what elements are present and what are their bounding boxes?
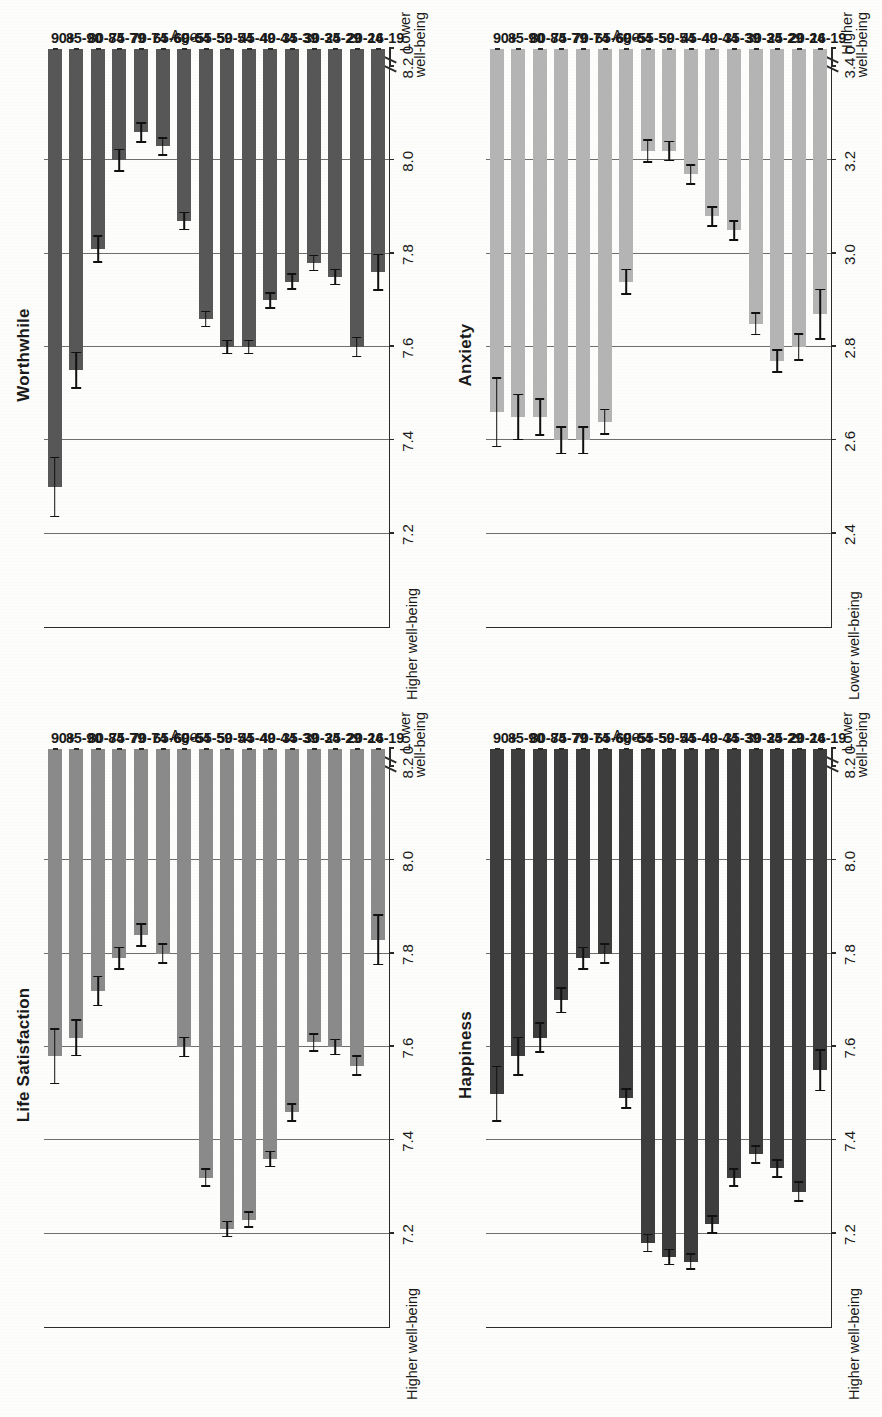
category-label: 90+ [51,30,75,46]
category-tick [312,48,317,50]
bar [598,49,612,422]
plot-area [486,67,832,628]
bar-row [749,47,763,627]
error-bar [76,352,78,389]
bar [328,49,342,277]
plot-area [44,67,390,628]
bar-row [350,47,364,627]
category-tick [355,48,360,50]
higher-wellbeing-label: Higher well-being [405,1288,420,1400]
bar-row [598,47,612,627]
chart-panel-happiness: HappinessHigher well-beingLowerwell-bein… [452,1400,882,1417]
bar [727,49,741,230]
axis-tick [389,532,394,534]
category-tick [754,48,759,50]
bar-row [242,47,256,627]
bar-row [641,47,655,627]
bar [511,49,525,417]
bar [350,49,364,347]
error-bar [97,235,99,263]
category-tick [247,48,252,50]
axis-tick [389,345,394,347]
category-tick [204,48,209,50]
bar-row [727,47,741,627]
bar [242,49,256,347]
bar [177,49,191,221]
bar [69,49,83,370]
higher-wellbeing-label: Lower well-being [847,591,862,700]
error-bar [647,139,649,162]
axis-tick-label: 8.0 [399,151,416,172]
axis-zero-label: 0 [399,46,416,54]
category-tick [53,48,58,50]
higher-wellbeing-label: Higher well-being [405,588,420,700]
bar [684,49,698,174]
axis-tick-label: 7.4 [399,1131,416,1152]
category-tick [646,48,651,50]
error-bar [183,212,185,231]
bar [307,49,321,263]
error-bar [377,254,379,291]
category-tick [268,48,273,50]
error-bar [755,1145,757,1164]
axis-tick [831,252,836,254]
category-tick [710,48,715,50]
error-bar [270,1151,272,1168]
axis-tick-label: 7.2 [841,1224,858,1245]
error-bar [712,206,714,227]
bar-row [48,47,62,627]
axis-tick-label: 7.4 [399,431,416,452]
error-bar [496,377,498,447]
category-tick [775,48,780,50]
bar [112,49,126,160]
bar-row [792,47,806,627]
axis-tick-label: 7.8 [399,244,416,265]
error-bar [248,1211,250,1228]
error-bar [226,340,228,355]
error-bar [819,289,821,340]
category-tick [559,48,564,50]
category-tick [516,48,521,50]
error-bar [334,269,336,286]
error-bar [518,394,520,441]
category-tick [139,48,144,50]
bar-row [490,47,504,627]
axis-tick [389,1232,394,1234]
bar [662,49,676,151]
error-bar [205,1168,207,1187]
axis-tick [831,532,836,534]
bar-row [69,47,83,627]
category-tick [161,48,166,50]
bar [490,49,504,412]
bar [156,49,170,146]
axis-tick-label: 2.6 [841,431,858,452]
error-bar [582,426,584,454]
bar-row [511,47,525,627]
chart-title: Anxiety [456,10,476,700]
higher-wellbeing-label: Higher well-being [847,1288,862,1400]
axis-tick-label: 2.4 [841,524,858,545]
axis-tick [389,252,394,254]
chart-panel-anxiety: AnxietyLower well-beingHigherwell-beingA… [452,700,882,1125]
error-bar [668,1249,670,1266]
error-bar [54,457,56,518]
category-tick [581,48,586,50]
bar [619,49,633,282]
axis-tick-label: 7.4 [841,1131,858,1152]
error-bar [119,149,121,172]
bar-row [705,47,719,627]
category-label: 90+ [493,30,517,46]
bar [770,49,784,361]
error-bar [248,340,250,355]
axis-tick [389,1139,394,1141]
axis-tick-label: 7.2 [399,524,416,545]
error-bar [539,398,541,435]
bar-row [307,47,321,627]
bar-row [554,47,568,627]
bar-row [177,47,191,627]
category-tick [96,48,101,50]
bar [134,49,148,132]
bar [749,49,763,324]
axis-tick-label: 8.2 [399,58,416,79]
bar-row [813,47,827,627]
